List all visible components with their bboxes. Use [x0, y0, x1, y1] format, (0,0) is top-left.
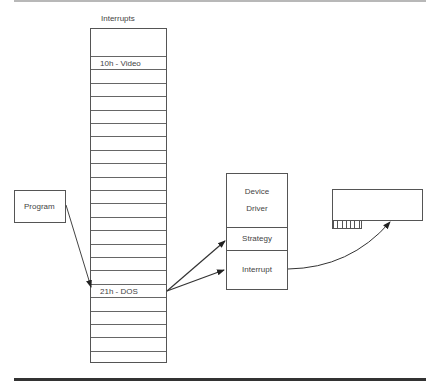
dos-to-interrupt-arrow	[167, 270, 224, 291]
program-to-dos-arrow	[66, 205, 91, 287]
dos-to-strategy-arrow	[167, 241, 225, 291]
bottom-rule	[14, 378, 426, 381]
arrows-layer	[0, 0, 436, 382]
interrupt-to-card-arrow	[288, 222, 390, 269]
